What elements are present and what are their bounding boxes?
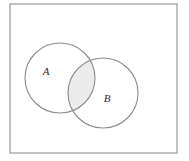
venn-diagram-figure: A B bbox=[0, 0, 189, 161]
set-b-label: B bbox=[104, 92, 111, 104]
set-a-label: A bbox=[42, 65, 50, 77]
venn-diagram-canvas: A B bbox=[0, 0, 189, 161]
